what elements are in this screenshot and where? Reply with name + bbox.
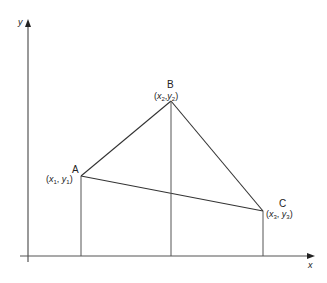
edge-ac (81, 176, 263, 211)
point-b-name: B (167, 79, 174, 90)
edge-ab (81, 101, 171, 176)
point-b-label: B (x2,y2) (154, 79, 178, 102)
x-axis-arrow-icon (307, 253, 315, 259)
edge-bc (171, 101, 263, 211)
triangle (81, 101, 263, 211)
point-c-coords: (x3, y3) (266, 209, 293, 220)
point-a-label: A (x1, y1) (46, 164, 79, 185)
y-axis-label: y (17, 17, 23, 27)
x-axis-label: x (307, 260, 313, 270)
axes: y x (17, 17, 315, 270)
point-a-coords: (x1, y1) (46, 174, 73, 185)
point-a-name: A (72, 164, 79, 175)
point-b-coords: (x2,y2) (154, 91, 178, 102)
y-axis-arrow-icon (25, 19, 31, 27)
point-c-label: C (x3, y3) (266, 198, 293, 220)
point-c-name: C (279, 198, 286, 209)
coordinate-diagram: y x A (x1, y1) B (x2,y2) C (x3, y3) (0, 0, 327, 283)
